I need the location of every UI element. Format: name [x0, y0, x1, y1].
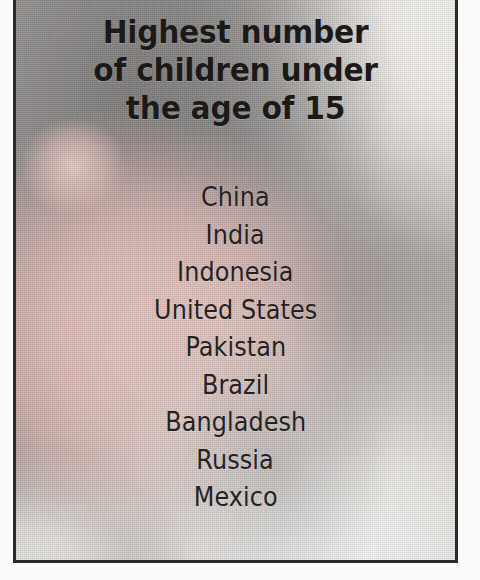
list-item: India: [16, 219, 455, 257]
list-item: United States: [16, 294, 455, 332]
list-item: Bangladesh: [16, 406, 455, 444]
country-name: Russia: [197, 444, 274, 477]
country-name: Indonesia: [177, 256, 294, 289]
clipping-content: Highest number of children under the age…: [16, 0, 455, 560]
country-name: Bangladesh: [165, 406, 306, 439]
newspaper-clipping: Highest number of children under the age…: [0, 0, 480, 580]
framed-photo-panel: Highest number of children under the age…: [13, 0, 458, 563]
country-name: India: [206, 219, 265, 252]
country-name: Mexico: [193, 481, 277, 514]
list-item: Brazil: [16, 369, 455, 407]
headline-line-2: of children under: [31, 51, 439, 89]
list-item: China: [16, 181, 455, 219]
list-item: Pakistan: [16, 331, 455, 369]
headline: Highest number of children under the age…: [16, 13, 455, 127]
list-item: Indonesia: [16, 256, 455, 294]
list-item: Mexico: [16, 481, 455, 519]
country-name: China: [201, 181, 270, 214]
headline-line-3: the age of 15: [31, 89, 439, 127]
country-name: Brazil: [202, 369, 269, 402]
country-name: United States: [154, 294, 317, 327]
list-item: Russia: [16, 444, 455, 482]
country-name: Pakistan: [185, 331, 286, 364]
country-ranking-list: China India Indonesia United States Paki…: [16, 181, 455, 519]
headline-line-1: Highest number: [31, 13, 439, 51]
